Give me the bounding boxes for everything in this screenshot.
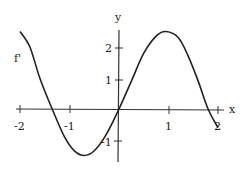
y-tick-label-neg1: -1 xyxy=(101,136,112,149)
x-axis-label: x xyxy=(229,103,236,116)
x-tick-label-1: 1 xyxy=(165,120,172,133)
y-tick-label-2: 2 xyxy=(105,42,112,55)
y-axis-label: y xyxy=(114,11,122,24)
y-axis xyxy=(118,30,119,162)
curve-label: f' xyxy=(14,52,21,65)
x-tick-label-2: 2 xyxy=(214,120,221,133)
x-tick-label-neg2: -2 xyxy=(14,120,25,133)
x-tick-label-neg1: -1 xyxy=(64,120,75,133)
y-tick-label-1: 1 xyxy=(105,74,112,87)
chart: x y f' -2 -1 1 2 2 1 -1 xyxy=(0,0,246,170)
x-axis xyxy=(16,109,224,110)
